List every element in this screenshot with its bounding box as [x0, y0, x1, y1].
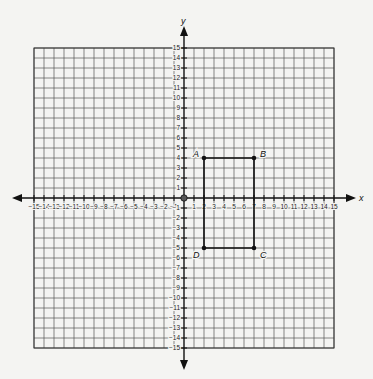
- y-tick-label: −4: [173, 234, 181, 241]
- y-axis-label: y: [180, 16, 186, 26]
- y-axis-arrow-up-icon: [180, 26, 188, 36]
- x-tick-label: 14: [320, 203, 328, 210]
- y-tick-label: 1: [176, 184, 180, 191]
- y-tick-label: −12: [169, 314, 180, 321]
- y-tick-label: −2: [173, 214, 181, 221]
- x-tick-label: −3: [150, 203, 158, 210]
- y-tick-label: 4: [176, 154, 180, 161]
- coordinate-plane: −15−14−13−12−11−10−9−8−7−6−5−4−3−2−11234…: [0, 0, 373, 379]
- y-tick-label: −15: [169, 344, 180, 351]
- y-tick-label: 10: [173, 94, 181, 101]
- y-tick-label: 14: [173, 54, 181, 61]
- x-tick-label: −9: [90, 203, 98, 210]
- point-c: [252, 246, 257, 251]
- x-tick-label: 5: [232, 203, 236, 210]
- y-tick-label: −13: [169, 324, 180, 331]
- origin-point: [181, 195, 187, 201]
- y-tick-label: 12: [173, 74, 181, 81]
- y-tick-label: 9: [176, 104, 180, 111]
- x-tick-label: 9: [272, 203, 276, 210]
- y-tick-label: 7: [176, 124, 180, 131]
- y-tick-label: −5: [173, 244, 181, 251]
- x-tick-label: 1: [192, 203, 196, 210]
- point-b: [252, 156, 257, 161]
- point-label-a: A: [192, 149, 199, 159]
- y-tick-label: 2: [176, 174, 180, 181]
- x-tick-label: 6: [242, 203, 246, 210]
- x-tick-label: 13: [310, 203, 318, 210]
- y-tick-label: −9: [173, 284, 181, 291]
- x-axis-label: x: [358, 193, 364, 203]
- x-tick-label: 15: [330, 203, 338, 210]
- x-tick-label: 12: [300, 203, 308, 210]
- axes: [12, 26, 356, 370]
- x-tick-label: −7: [110, 203, 118, 210]
- y-tick-label: −8: [173, 274, 181, 281]
- x-tick-label: −5: [130, 203, 138, 210]
- x-axis-arrow-left-icon: [12, 194, 22, 202]
- y-tick-label: 13: [173, 64, 181, 71]
- x-tick-label: −2: [160, 203, 168, 210]
- y-tick-label: 3: [176, 164, 180, 171]
- x-tick-label: 4: [222, 203, 226, 210]
- y-tick-label: −11: [169, 304, 180, 311]
- y-tick-label: −14: [169, 334, 180, 341]
- point-label-c: C: [260, 250, 267, 260]
- y-tick-label: 8: [176, 114, 180, 121]
- x-tick-label: 3: [212, 203, 216, 210]
- y-tick-label: −10: [169, 294, 180, 301]
- point-label-b: B: [260, 149, 266, 159]
- y-tick-label: −3: [173, 224, 181, 231]
- y-tick-label: −7: [173, 264, 181, 271]
- y-tick-label: 5: [176, 144, 180, 151]
- point-label-d: D: [193, 250, 200, 260]
- x-tick-label: 10: [280, 203, 288, 210]
- y-tick-label: 11: [173, 84, 180, 91]
- y-axis-arrow-down-icon: [180, 360, 188, 370]
- point-a: [202, 156, 207, 161]
- y-tick-label: −1: [173, 204, 181, 211]
- x-tick-label: −4: [140, 203, 148, 210]
- x-tick-label: −10: [78, 203, 89, 210]
- x-tick-label: 11: [291, 203, 298, 210]
- x-tick-label: −8: [100, 203, 108, 210]
- x-tick-label: 8: [262, 203, 266, 210]
- y-tick-label: 6: [176, 134, 180, 141]
- x-tick-label: −6: [120, 203, 128, 210]
- point-d: [202, 246, 207, 251]
- y-tick-label: 15: [173, 44, 181, 51]
- y-tick-label: −6: [173, 254, 181, 261]
- x-axis-arrow-right-icon: [346, 194, 356, 202]
